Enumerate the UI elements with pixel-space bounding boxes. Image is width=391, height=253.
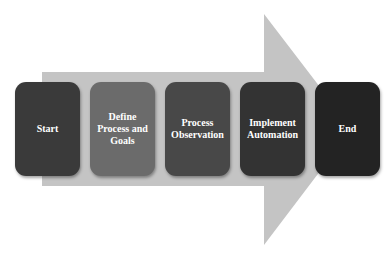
step-start-label: Start [37,123,59,135]
step-process-observation: Process Observation [165,82,230,176]
step-end-label: End [339,123,357,135]
step-start: Start [15,82,80,176]
step-define-label: Define Process and Goals [97,111,148,147]
step-implement-automation: Implement Automation [240,82,305,176]
step-end: End [315,82,380,176]
step-implement-label: Implement Automation [247,117,298,141]
step-define-process-and-goals: Define Process and Goals [90,82,155,176]
step-observation-label: Process Observation [171,117,224,141]
